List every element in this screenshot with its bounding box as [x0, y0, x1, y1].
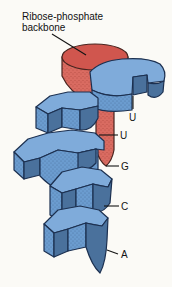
- backbone-title-line1: Ribose-phosphate: [22, 11, 104, 22]
- rna-structure-diagram: U U G C A Ribose-phosphate backbone: [0, 0, 172, 287]
- base-u2-right-face: [80, 106, 98, 130]
- base-block-a: [44, 206, 108, 273]
- base-u1-notch-wall: [133, 75, 147, 95]
- base-label-u2: U: [120, 130, 127, 141]
- base-u1-right-cap: [148, 81, 164, 97]
- diagram-canvas: U U G C A Ribose-phosphate backbone: [0, 0, 172, 287]
- backbone-title-line2: backbone: [22, 22, 66, 33]
- base-label-u1: U: [129, 112, 136, 123]
- base-label-g: G: [121, 161, 129, 172]
- leader-line-a: [107, 250, 118, 254]
- base-g-step-face: [24, 158, 40, 179]
- base-label-a: A: [121, 249, 128, 260]
- base-label-c: C: [121, 201, 128, 212]
- base-u2-front-main: [62, 108, 80, 130]
- base-a-right-face: [86, 218, 108, 273]
- base-block-u1: [90, 59, 165, 112]
- base-a-step-face: [54, 229, 68, 257]
- base-block-u2: [36, 92, 98, 133]
